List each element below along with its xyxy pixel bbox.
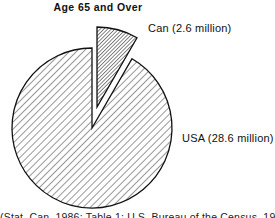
- source-footnote: (Stat. Can. 1986: Table 1; U.S. Bureau o…: [0, 211, 275, 218]
- source-footnote-text: (Stat. Can. 1986: Table 1; U.S. Bureau o…: [0, 211, 275, 218]
- pie-slice-usa: [12, 48, 172, 208]
- slice-label-usa: USA (28.6 million): [182, 132, 274, 144]
- slice-label-can: Can (2.6 million): [148, 22, 231, 34]
- pie-chart: [0, 0, 275, 218]
